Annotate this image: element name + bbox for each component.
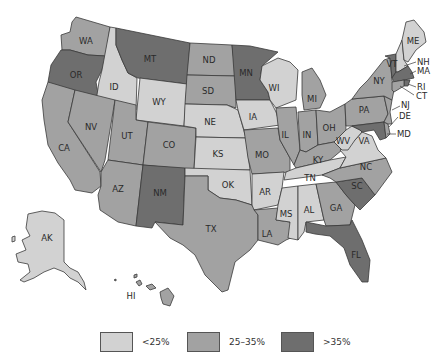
label-NV: NV <box>85 122 97 132</box>
label-VT: VT <box>386 59 398 69</box>
label-IA: IA <box>249 112 258 122</box>
label-WY: WY <box>152 97 166 107</box>
legend-item-low: <25% <box>100 331 170 353</box>
label-CT: CT <box>416 91 428 101</box>
legend-swatch-low <box>100 332 133 352</box>
legend-swatch-high <box>281 332 314 352</box>
label-KY: KY <box>313 155 324 165</box>
label-UT: UT <box>121 131 133 141</box>
legend: <25% 25–35% >35% <box>0 331 438 353</box>
label-HI: HI <box>127 291 136 301</box>
label-GA: GA <box>330 203 343 213</box>
label-VA: VA <box>358 136 369 146</box>
legend-label-low: <25% <box>142 337 170 347</box>
label-SD: SD <box>202 86 214 96</box>
label-FL: FL <box>351 250 361 260</box>
legend-swatch-mid <box>187 332 220 352</box>
state-RI <box>404 80 410 86</box>
state-AK-island <box>12 236 15 242</box>
state-MI <box>302 68 326 110</box>
label-SC: SC <box>351 181 362 191</box>
label-DE: DE <box>399 111 411 121</box>
label-IN: IN <box>303 130 312 140</box>
label-NJ: NJ <box>401 100 410 110</box>
state-CT <box>392 80 404 92</box>
label-NM: NM <box>153 188 167 198</box>
label-MA: MA <box>417 66 430 76</box>
label-ME: ME <box>407 36 420 46</box>
label-MS: MS <box>280 209 293 219</box>
label-OR: OR <box>70 70 83 80</box>
label-NC: NC <box>360 162 372 172</box>
label-WA: WA <box>79 36 93 46</box>
legend-item-mid: 25–35% <box>187 331 265 353</box>
label-CA: CA <box>58 143 70 153</box>
label-LA: LA <box>262 229 273 239</box>
label-OH: OH <box>322 123 335 133</box>
label-IL: IL <box>281 130 289 140</box>
state-AK <box>16 211 86 290</box>
label-TN: TN <box>303 173 316 183</box>
label-ID: ID <box>109 82 119 92</box>
label-KS: KS <box>213 149 224 159</box>
label-ND: ND <box>203 55 216 65</box>
label-MI: MI <box>307 94 317 104</box>
label-WI: WI <box>269 83 280 93</box>
label-AK: AK <box>41 233 53 243</box>
state-HI <box>114 274 174 306</box>
label-MO: MO <box>255 150 269 160</box>
legend-label-high: >35% <box>323 337 351 347</box>
label-CO: CO <box>163 140 176 150</box>
label-NE: NE <box>204 117 216 127</box>
label-PA: PA <box>359 105 370 115</box>
label-MN: MN <box>239 68 253 78</box>
label-TX: TX <box>204 224 216 234</box>
label-NY: NY <box>373 76 385 86</box>
legend-item-high: >35% <box>281 331 351 353</box>
label-OK: OK <box>222 180 235 190</box>
label-AR: AR <box>259 187 271 197</box>
legend-label-mid: 25–35% <box>229 337 265 347</box>
label-MD: MD <box>397 129 411 139</box>
us-choropleth-map: WA OR CA ID NV MT WY UT CO AZ NM ND SD N… <box>0 0 438 359</box>
label-WV: WV <box>336 136 350 146</box>
label-MT: MT <box>144 54 157 64</box>
label-AZ: AZ <box>112 184 124 194</box>
label-AL: AL <box>304 205 315 215</box>
